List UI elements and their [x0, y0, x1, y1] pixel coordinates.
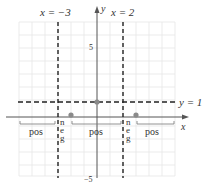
y-axis-arrow-icon: [95, 6, 100, 13]
svg-text:g: g: [126, 133, 131, 143]
point-x-intercept-3: [133, 112, 138, 117]
label-asym-left: x = −3: [39, 6, 71, 18]
point-x-intercept-neg2: [68, 112, 73, 117]
x-axis-arrow-icon: [182, 115, 189, 120]
sign-pos-2: pos: [89, 126, 103, 137]
tick-5: 5: [89, 43, 93, 52]
sign-neg-1: n e g: [60, 117, 65, 143]
label-y-axis: y: [100, 3, 106, 14]
label-asym-right: x = 2: [110, 6, 135, 18]
sign-neg-2: n e g: [126, 117, 131, 143]
tick-neg5: −5: [84, 175, 93, 184]
chart-canvas: x = −3 x = 2 y x y = 1 5 −5 pos pos pos …: [0, 0, 204, 186]
sign-pos-1: pos: [29, 126, 43, 137]
sign-pos-3: pos: [145, 126, 159, 137]
svg-text:g: g: [60, 133, 65, 143]
label-x-axis: x: [180, 121, 186, 132]
point-y-intercept: [94, 99, 99, 104]
label-asym-horizontal: y = 1: [178, 96, 202, 108]
